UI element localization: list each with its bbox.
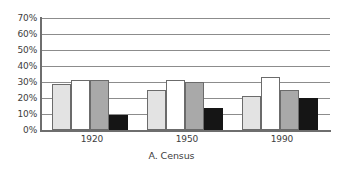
y-tick-label: 40%: [3, 62, 37, 71]
bar-1920-series-3: [90, 80, 109, 130]
y-tick-label: 70%: [3, 14, 37, 23]
y-tick-label: 30%: [3, 78, 37, 87]
chart-caption: A. Census: [0, 150, 343, 161]
y-tick-label: 50%: [3, 46, 37, 55]
bar-1990-series-3: [280, 90, 299, 130]
y-tick-label: 20%: [3, 94, 37, 103]
bar-1950-series-2: [166, 80, 185, 130]
bar-group-1950: [147, 18, 227, 130]
y-tick-label: 0%: [3, 126, 37, 135]
bar-1950-series-3: [185, 82, 204, 130]
bar-1920-series-4: [109, 115, 128, 130]
bar-1990-series-1: [242, 96, 261, 130]
bar-1920-series-1: [52, 84, 71, 130]
x-tick-label-1990: 1990: [242, 135, 322, 144]
y-tick-label: 60%: [3, 30, 37, 39]
chart-container: 70% 60% 50% 40% 30% 20% 10% 0%: [0, 0, 343, 169]
bar-1990-series-4: [299, 98, 318, 130]
x-tick-label-1950: 1950: [147, 135, 227, 144]
x-axis-line: [40, 130, 331, 132]
bar-series-area: [40, 18, 331, 130]
bar-1950-series-4: [204, 108, 223, 130]
y-axis-tick-labels: 70% 60% 50% 40% 30% 20% 10% 0%: [0, 0, 37, 169]
bar-1950-series-1: [147, 90, 166, 130]
bar-group-1920: [52, 18, 132, 130]
x-tick-label-1920: 1920: [52, 135, 132, 144]
bar-1920-series-2: [71, 80, 90, 130]
y-tick-label: 10%: [3, 110, 37, 119]
bar-group-1990: [242, 18, 322, 130]
bar-1990-series-2: [261, 77, 280, 130]
